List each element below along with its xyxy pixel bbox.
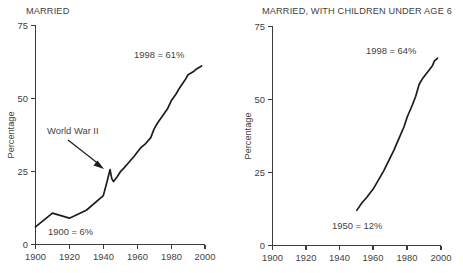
left-xtick-1920: 1920: [59, 251, 80, 262]
left-xtick-1960: 1960: [127, 251, 148, 262]
right-ytick-0: 0: [260, 240, 265, 251]
left-xtick-2000: 2000: [195, 251, 216, 262]
left-data-line: [36, 66, 202, 227]
right-panel: MARRIED, WITH CHILDREN UNDER AGE 6 75 50…: [243, 6, 452, 263]
left-ytick-0: 0: [23, 239, 28, 250]
left-ytick-75: 75: [18, 20, 28, 31]
right-yaxis-title: Percentage: [243, 113, 253, 160]
left-ytick-50: 50: [18, 93, 28, 104]
left-xtick-1940: 1940: [93, 251, 114, 262]
right-xtick-1900: 1900: [262, 252, 283, 263]
right-ytick-50: 50: [255, 94, 265, 105]
left-annotation-start: 1900 = 6%: [48, 226, 93, 237]
right-xtick-1980: 1980: [397, 252, 418, 263]
figure-root: MARRIED 75 50 25 0 Percentage: [0, 0, 463, 273]
right-annotation-start: 1950 = 12%: [332, 220, 382, 231]
left-panel: MARRIED 75 50 25 0 Percentage: [6, 6, 215, 262]
two-panel-line-charts: MARRIED 75 50 25 0 Percentage: [0, 0, 463, 273]
left-annotation-event: World War II: [47, 125, 99, 136]
right-xtick-1920: 1920: [296, 252, 317, 263]
wwii-arrow-icon: [68, 140, 104, 169]
left-ytick-25: 25: [18, 166, 28, 177]
right-axis-lines: [273, 26, 442, 246]
left-yaxis-title: Percentage: [6, 112, 16, 159]
right-xtick-1960: 1960: [363, 252, 384, 263]
left-x-ticks: [36, 245, 206, 250]
right-xtick-2000: 2000: [431, 252, 452, 263]
left-y-ticks: [31, 26, 36, 245]
right-ytick-25: 25: [255, 167, 265, 178]
left-panel-title: MARRIED: [26, 6, 70, 16]
right-panel-title: MARRIED, WITH CHILDREN UNDER AGE 6: [262, 6, 452, 16]
right-annotation-end: 1998 = 64%: [366, 45, 416, 56]
right-data-line: [357, 58, 438, 210]
right-y-ticks: [268, 27, 273, 246]
left-annotation-end: 1998 = 61%: [134, 49, 184, 60]
left-xtick-1980: 1980: [161, 251, 182, 262]
right-x-ticks: [273, 246, 442, 251]
right-xtick-1940: 1940: [329, 252, 350, 263]
left-xtick-1900: 1900: [25, 251, 46, 262]
right-ytick-75: 75: [255, 21, 265, 32]
